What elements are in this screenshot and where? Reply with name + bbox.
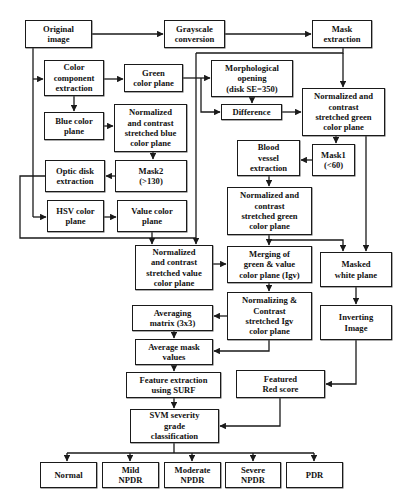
node-average-mask-values: Average mask values bbox=[135, 339, 213, 365]
node-label: Color component extraction bbox=[54, 62, 95, 93]
node-label: Inverting Image bbox=[339, 312, 373, 333]
node-normalized-green-mid: Normalized and contrast stretched green … bbox=[227, 187, 312, 235]
node-blood-vessel-extraction: Blood vessel extraction bbox=[237, 140, 300, 176]
node-label: Normalizing & Contrast stretched Igv col… bbox=[242, 295, 297, 337]
node-value-color-plane: Value color plane bbox=[117, 200, 187, 232]
node-label: PDR bbox=[306, 470, 324, 480]
node-label: Average mask values bbox=[148, 342, 200, 363]
node-normalized-value: Normalized and contrast stretched value … bbox=[135, 245, 213, 290]
node-label: Normalized and contrast stretched blue c… bbox=[125, 107, 177, 149]
node-morphological-opening: Morphological opening (disk SE=350) bbox=[211, 60, 293, 97]
node-label: Optic disk extraction bbox=[56, 166, 94, 187]
node-blue-color-plane: Blue color plane bbox=[44, 112, 104, 140]
node-original-image: Original image bbox=[25, 20, 92, 48]
node-merging-igv: Merging of green & value color plane (Ig… bbox=[227, 246, 312, 283]
node-label: SVM severity grade classification bbox=[150, 410, 200, 441]
node-label: Normalized and contrast stretched green … bbox=[314, 91, 373, 133]
node-label: HSV color plane bbox=[56, 206, 94, 227]
node-label: Normalized and contrast stretched value … bbox=[146, 247, 201, 289]
node-label: Difference bbox=[232, 107, 270, 117]
node-label: Severe NPDR bbox=[241, 465, 265, 486]
node-label: Blue color plane bbox=[55, 116, 92, 137]
node-masked-white-plane: Masked white plane bbox=[320, 252, 392, 287]
node-normalizing-igv: Normalizing & Contrast stretched Igv col… bbox=[227, 292, 312, 340]
node-label: Mild NPDR bbox=[119, 465, 143, 486]
node-class-severe-npdr: Severe NPDR bbox=[225, 462, 281, 488]
node-label: Blood vessel extraction bbox=[250, 142, 287, 173]
node-averaging-matrix: Averaging matrix (3x3) bbox=[132, 305, 213, 331]
node-label: Moderate NPDR bbox=[175, 465, 211, 486]
node-label: Normal bbox=[54, 470, 82, 480]
node-difference: Difference bbox=[221, 104, 282, 120]
flowchart-canvas: Original image Grayscale conversion Mask… bbox=[0, 0, 408, 504]
node-label: Averaging matrix (3x3) bbox=[150, 308, 196, 329]
node-label: Merging of green & value color plane (Ig… bbox=[239, 249, 299, 280]
node-label: Value color plane bbox=[131, 206, 172, 227]
node-class-mild-npdr: Mild NPDR bbox=[102, 462, 159, 488]
node-label: Feature extraction using SURF bbox=[140, 375, 208, 396]
node-grayscale-conversion: Grayscale conversion bbox=[164, 20, 225, 48]
node-mask-extraction: Mask extraction bbox=[312, 20, 372, 48]
node-label: Grayscale conversion bbox=[175, 24, 215, 45]
node-mask2: Mask2 (>130) bbox=[115, 160, 187, 192]
node-label: Mask extraction bbox=[323, 24, 360, 45]
node-normalized-blue: Normalized and contrast stretched blue c… bbox=[114, 104, 187, 152]
node-hsv-color-plane: HSV color plane bbox=[47, 200, 104, 232]
node-class-moderate-npdr: Moderate NPDR bbox=[164, 462, 221, 488]
node-label: Original image bbox=[43, 24, 74, 45]
node-label: Normalized and contrast stretched green … bbox=[240, 190, 299, 232]
node-normalized-green-top: Normalized and contrast stretched green … bbox=[302, 88, 385, 136]
node-feature-extraction-surf: Feature extraction using SURF bbox=[126, 372, 221, 398]
node-color-component-extraction: Color component extraction bbox=[44, 60, 104, 96]
node-featured-red-score: Featured Red score bbox=[236, 370, 325, 398]
node-optic-disk-extraction: Optic disk extraction bbox=[45, 160, 105, 192]
node-class-pdr: PDR bbox=[286, 462, 343, 488]
node-label: Green color plane bbox=[133, 68, 174, 89]
node-label: Mask1 (<60) bbox=[321, 150, 346, 171]
node-label: Masked white plane bbox=[335, 259, 377, 280]
node-green-color-plane: Green color plane bbox=[124, 64, 183, 92]
node-svm-classification: SVM severity grade classification bbox=[130, 409, 219, 443]
node-label: Mask2 (>130) bbox=[139, 166, 164, 187]
node-mask1: Mask1 (<60) bbox=[312, 144, 355, 176]
node-label: Featured Red score bbox=[263, 374, 299, 395]
node-label: Morphological opening (disk SE=350) bbox=[225, 63, 279, 94]
node-class-normal: Normal bbox=[40, 462, 97, 488]
node-inverting-image: Inverting Image bbox=[320, 305, 392, 340]
